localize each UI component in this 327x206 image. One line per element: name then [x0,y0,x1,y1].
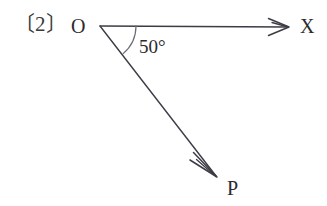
ray-op-arrowhead-inner-icon [197,160,217,177]
geometry-figure: 〔2〕 O X P 50° [0,0,327,206]
vertex-label-o: O [71,16,85,36]
ray-label-p: P [227,178,238,198]
item-number-label: 〔2〕 [14,14,67,35]
ray-label-x: X [300,16,314,36]
angle-arc [123,26,136,53]
ray-ox-line [100,26,288,27]
angle-measure-label: 50° [139,37,166,56]
